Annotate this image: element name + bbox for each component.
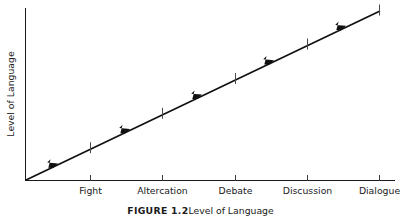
x-label-fight: Fight [79,185,102,196]
figure-caption-title: Level of Language [188,205,273,216]
x-axis-ticks [91,175,380,181]
figure-caption-number: FIGURE 1.2 [127,205,188,216]
trend-line-ticks [91,5,380,154]
x-label-altercation: Altercation [137,185,188,196]
arrowhead-1 [47,159,58,168]
figure-container: Fight Altercation Debate Discussion Dial… [0,0,401,219]
line-chart: Fight Altercation Debate Discussion Dial… [0,0,401,219]
direction-arrowheads [47,22,346,168]
trend-line [26,11,380,180]
x-label-discussion: Discussion [283,185,333,196]
x-label-debate: Debate [219,185,253,196]
arrowhead-4 [263,56,274,65]
arrowhead-3 [191,90,202,99]
arrowhead-2 [119,125,130,134]
y-axis-label: Level of Language [5,51,16,137]
figure-caption: FIGURE 1.2Level of Language [0,205,401,216]
x-label-dialogue: Dialogue [359,185,401,196]
arrowhead-5 [335,22,346,31]
